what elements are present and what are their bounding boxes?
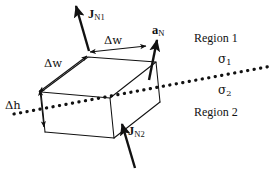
sigma-2-label: σ2 bbox=[218, 84, 231, 96]
sigma-2-subscript: 2 bbox=[226, 88, 231, 98]
j-n1-subscript: N1 bbox=[94, 12, 104, 22]
sigma-1-label: σ1 bbox=[218, 53, 231, 65]
sigma-1-subscript: 1 bbox=[226, 57, 231, 67]
j-n1-label: JN1 bbox=[88, 8, 105, 21]
j-n2-subscript: N2 bbox=[134, 129, 144, 139]
a-n-label: aN bbox=[152, 24, 164, 37]
a-n-normal-arrow bbox=[149, 40, 157, 80]
diagram-canvas bbox=[0, 0, 274, 173]
sigma-2-symbol: σ bbox=[218, 83, 226, 97]
sigma-1-symbol: σ bbox=[218, 52, 226, 66]
a-n-subscript: N bbox=[158, 28, 164, 38]
pillbox-edge-bottom-front bbox=[45, 132, 114, 138]
region-1-label: Region 1 bbox=[194, 32, 238, 44]
j-n2-label: JN2 bbox=[128, 125, 145, 138]
pillbox-edge-right bbox=[156, 62, 160, 102]
delta-h-label: Δh bbox=[5, 100, 21, 112]
delta-w-top-label: Δw bbox=[104, 35, 122, 47]
region-2-label: Region 2 bbox=[194, 106, 238, 118]
delta-w-left-label: Δw bbox=[44, 58, 62, 70]
boundary-condition-diagram: JN1 JN2 aN Δw Δw Δh Region 1 σ1 σ2 Regio… bbox=[0, 0, 274, 173]
pillbox-edge-front-middle bbox=[110, 98, 114, 138]
